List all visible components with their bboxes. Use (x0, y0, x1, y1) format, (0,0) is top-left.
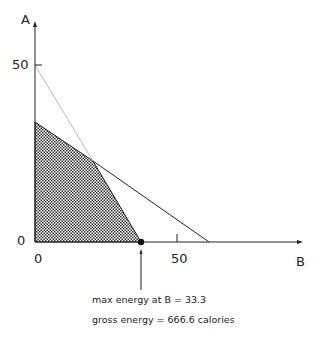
annotation-max-energy: max energy at B = 33.3 (92, 294, 206, 305)
y-axis-label: A (21, 12, 30, 27)
diagram-canvas (0, 0, 325, 338)
annotation-gross-energy: gross energy = 666.6 calories (92, 314, 235, 325)
x-axis-arrow-icon (297, 240, 303, 244)
feasible-region (35, 122, 141, 242)
x-tick-label-0: 0 (34, 251, 42, 266)
x-axis-label: B (296, 254, 305, 269)
y-tick-label-50: 50 (12, 57, 29, 72)
annotation-arrow-head-icon (140, 249, 143, 254)
optimum-point (138, 239, 144, 245)
x-tick-label-50: 50 (171, 251, 188, 266)
y-tick-label-0: 0 (17, 233, 25, 248)
y-axis-arrow-icon (33, 21, 37, 27)
